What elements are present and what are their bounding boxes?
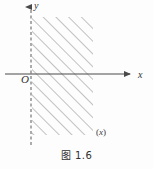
region-annotation: (x) [96, 128, 106, 137]
figure-container: y x O (x) 图 1.6 [0, 0, 153, 169]
region-annotation-close-paren: ) [103, 127, 106, 137]
y-axis-label: y [34, 1, 38, 11]
figure-caption: 图 1.6 [0, 150, 153, 162]
x-axis-label: x [138, 70, 142, 80]
shaded-region [32, 17, 93, 135]
origin-label: O [21, 74, 29, 85]
